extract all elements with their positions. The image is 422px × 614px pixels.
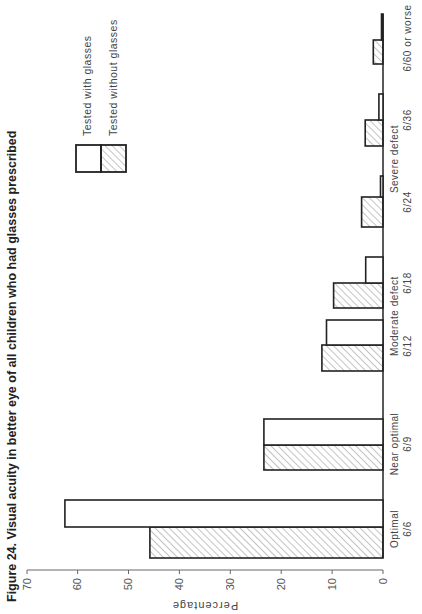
y-tick-50: 50 xyxy=(122,578,134,590)
bar-6-9-with xyxy=(264,419,383,445)
y-axis-title: Percentage xyxy=(172,600,238,612)
y-tick-30: 30 xyxy=(224,578,236,590)
cat-label-6-12: 6/12 xyxy=(402,335,413,356)
legend-label-without-glasses: Tested without glasses xyxy=(107,19,119,136)
group-label-moderate: Moderate defect xyxy=(389,276,400,356)
cat-label-6-6: 6/6 xyxy=(402,521,413,536)
bar-6-36-without xyxy=(365,120,383,146)
legend: Tested with glasses Tested without glass… xyxy=(76,19,126,172)
cat-label-6-60: 6/60 or worse xyxy=(402,4,413,71)
bar-chart: 0 10 20 30 40 50 60 70 Percentage xyxy=(0,0,422,614)
y-tick-10: 10 xyxy=(326,578,338,590)
rotated-figure: Figure 24. Visual acuity in better eye o… xyxy=(0,0,422,614)
bar-6-18-without xyxy=(334,283,383,308)
cat-label-6-9: 6/9 xyxy=(402,436,413,451)
bar-6-9-without xyxy=(264,445,383,470)
legend-swatch-with-glasses xyxy=(76,145,101,172)
bar-6-6-without xyxy=(150,527,383,558)
cat-label-6-24: 6/24 xyxy=(402,191,413,212)
bar-6-24-with xyxy=(381,176,384,197)
group-label-optimal: Optimal xyxy=(389,510,400,548)
bar-6-24-without xyxy=(362,197,383,227)
cat-label-6-18: 6/18 xyxy=(402,272,413,293)
bar-6-60-with xyxy=(382,14,384,40)
bar-6-60-without xyxy=(373,40,383,64)
cat-label-6-36: 6/36 xyxy=(402,109,413,130)
y-tick-20: 20 xyxy=(275,578,287,590)
y-tick-0: 0 xyxy=(377,578,389,584)
bar-6-6-with xyxy=(65,500,383,527)
bar-6-36-with xyxy=(379,94,383,120)
group-label-near-optimal: Near optimal xyxy=(389,413,400,476)
bar-6-12-with xyxy=(327,320,384,345)
legend-label-with-glasses: Tested with glasses xyxy=(81,35,93,136)
group-label-severe: Severe defect xyxy=(389,125,400,193)
legend-swatch-without-glasses xyxy=(101,145,126,172)
y-tick-70: 70 xyxy=(21,578,33,590)
bar-6-12-without xyxy=(322,345,383,371)
bar-6-18-with xyxy=(366,257,383,283)
y-tick-40: 40 xyxy=(173,578,185,590)
y-axis: 0 10 20 30 40 50 60 70 Percentage xyxy=(21,570,389,612)
y-tick-60: 60 xyxy=(71,578,83,590)
category-labels: Optimal 6/6 Near optimal 6/9 Moderate de… xyxy=(389,4,413,548)
